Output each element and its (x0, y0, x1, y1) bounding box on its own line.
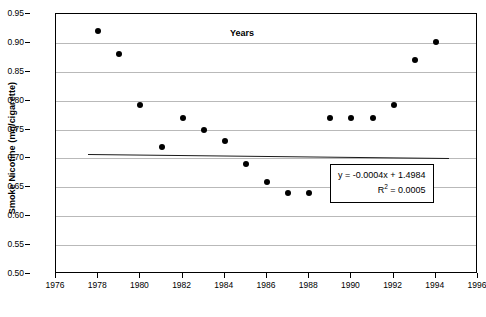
regression-equation-box: y = -0.0004x + 1.4984 R2 = 0.0005 (330, 164, 434, 203)
x-axis-title: Years (0, 28, 484, 38)
x-axis-tick-mark (182, 273, 183, 278)
gridline (56, 130, 476, 131)
x-axis-tick-label: 1980 (130, 281, 149, 290)
data-point (264, 179, 270, 185)
x-axis-tick-label: 1982 (172, 281, 191, 290)
y-axis-title: Smoke Nicotine (mg/cigarette) (7, 43, 17, 253)
gridline (56, 43, 476, 44)
data-point (222, 138, 228, 144)
gridline (56, 72, 476, 73)
y-axis-tick-mark (25, 100, 30, 101)
data-point (412, 57, 418, 63)
data-point (391, 102, 397, 108)
gridline (56, 101, 476, 102)
data-point (327, 115, 333, 121)
data-point (116, 51, 122, 57)
y-axis-tick-mark (25, 157, 30, 158)
plot-area (55, 13, 477, 273)
x-axis: 1976197819801982198419861988199019921994… (0, 273, 484, 317)
x-axis-tick-label: 1996 (468, 281, 486, 290)
x-axis-tick-mark (139, 273, 140, 278)
data-point (285, 190, 291, 196)
gridline (56, 216, 476, 217)
y-axis-tick-mark (25, 244, 30, 245)
gridline (56, 245, 476, 246)
x-axis-tick-mark (477, 273, 478, 278)
x-axis-tick-label: 1992 (383, 281, 402, 290)
data-point (201, 127, 207, 133)
data-point (348, 115, 354, 121)
x-axis-tick-label: 1994 (425, 281, 444, 290)
x-axis-tick-mark (55, 273, 56, 278)
data-point (137, 102, 143, 108)
y-axis-tick-mark (25, 13, 30, 14)
y-axis-tick-label: 0.95 (7, 9, 24, 18)
y-axis-tick-mark (25, 129, 30, 130)
x-axis-tick-label: 1988 (299, 281, 318, 290)
r-squared-text: R2 = 0.0005 (338, 182, 426, 197)
data-point (159, 144, 165, 150)
data-point (306, 190, 312, 196)
x-axis-tick-label: 1976 (46, 281, 65, 290)
x-axis-tick-label: 1984 (214, 281, 233, 290)
x-axis-tick-label: 1978 (88, 281, 107, 290)
x-axis-tick-mark (393, 273, 394, 278)
data-point (370, 115, 376, 121)
x-axis-tick-mark (435, 273, 436, 278)
y-axis-tick-mark (25, 42, 30, 43)
x-axis-tick-mark (266, 273, 267, 278)
x-axis-tick-mark (308, 273, 309, 278)
y-axis-tick-mark (25, 186, 30, 187)
r-squared-exponent: 2 (384, 183, 388, 190)
data-point (180, 115, 186, 121)
data-point (433, 39, 439, 45)
x-axis-tick-label: 1990 (341, 281, 360, 290)
x-axis-tick-mark (97, 273, 98, 278)
r-squared-value: = 0.0005 (390, 185, 425, 195)
y-axis-tick-mark (25, 215, 30, 216)
data-point (243, 161, 249, 167)
x-axis-tick-mark (224, 273, 225, 278)
x-axis-tick-label: 1986 (257, 281, 276, 290)
y-axis-tick-mark (25, 71, 30, 72)
regression-equation-text: y = -0.0004x + 1.4984 (338, 169, 426, 182)
x-axis-tick-mark (350, 273, 351, 278)
